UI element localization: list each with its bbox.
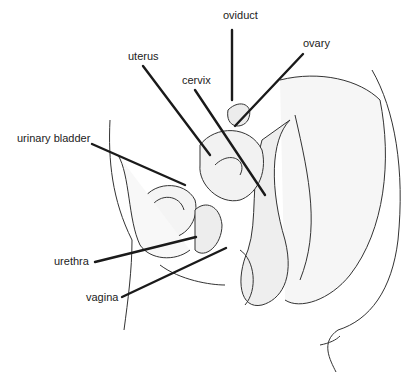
label-uterus: uterus [128,51,159,62]
label-urethra: urethra [54,256,89,267]
label-cervix: cervix [182,75,211,86]
anatomy-illustration [0,0,417,385]
label-urinary-bladder: urinary bladder [17,133,90,144]
urinary-bladder-leader-line [92,144,185,185]
label-vagina: vagina [86,292,118,303]
label-ovary: ovary [303,38,330,49]
anatomy-diagram: oviduct ovary uterus cervix urinary blad… [0,0,417,385]
label-oviduct: oviduct [223,10,258,21]
